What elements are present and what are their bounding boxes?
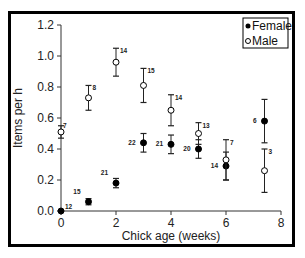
x-tick-label: 0 <box>58 216 65 230</box>
sample-size-label: 12 <box>65 203 73 210</box>
axes: 024680.00.20.40.60.81.01.2 <box>37 18 284 230</box>
male-point: 15 <box>141 67 156 102</box>
male-point: 3 <box>262 148 273 192</box>
male-marker-icon <box>246 39 251 44</box>
sample-size-label: 6 <box>253 117 257 124</box>
sample-size-label: 20 <box>183 145 191 152</box>
sample-size-label: 21 <box>101 169 109 176</box>
sample-size-label: 13 <box>203 122 211 129</box>
sample-size-label: 7 <box>230 139 234 146</box>
male-point: 14 <box>113 47 128 76</box>
legend-male: Male <box>252 34 278 48</box>
sample-size-label: 8 <box>93 84 97 91</box>
sample-size-label: 15 <box>73 188 81 195</box>
data-points: 121521222120146781415141373 <box>58 47 273 214</box>
sample-size-label: 15 <box>148 67 156 74</box>
male-point: 14 <box>168 94 183 126</box>
female-point: 12 <box>58 203 73 214</box>
sample-size-label: 14 <box>175 94 183 101</box>
y-axis-label: Items per h <box>11 88 25 148</box>
legend: Female Male <box>243 18 292 48</box>
x-axis-label: Chick age (weeks) <box>122 229 221 243</box>
sample-size-label: 3 <box>269 148 273 155</box>
x-tick-label: 2 <box>113 216 120 230</box>
x-tick-label: 6 <box>223 216 230 230</box>
sample-size-label: 21 <box>156 140 164 147</box>
x-tick-label: 8 <box>278 216 285 230</box>
male-point: 7 <box>223 139 234 180</box>
sample-size-label: 14 <box>211 162 219 169</box>
y-tick-label: 1.2 <box>37 18 54 32</box>
female-point: 21 <box>101 169 119 188</box>
female-point: 22 <box>128 134 146 153</box>
legend-female: Female <box>252 19 292 33</box>
y-tick-label: 1.0 <box>37 49 54 63</box>
x-tick-label: 4 <box>168 216 175 230</box>
y-tick-label: 0.2 <box>37 173 54 187</box>
sample-size-label: 22 <box>128 139 136 146</box>
sample-size-label: 14 <box>120 47 128 54</box>
y-tick-label: 0.0 <box>37 204 54 218</box>
female-point: 21 <box>156 135 174 154</box>
male-point: 7 <box>58 122 67 138</box>
y-tick-label: 0.4 <box>37 142 54 156</box>
y-tick-label: 0.8 <box>37 80 54 94</box>
male-point: 8 <box>86 84 97 110</box>
male-point: 13 <box>196 122 211 145</box>
scatter-chart: 024680.00.20.40.60.81.01.2 1215212221201… <box>0 0 305 258</box>
female-marker-icon <box>246 24 251 29</box>
y-tick-label: 0.6 <box>37 111 54 125</box>
female-point: 6 <box>253 99 268 142</box>
female-point: 15 <box>73 188 91 205</box>
sample-size-label: 7 <box>63 122 67 129</box>
